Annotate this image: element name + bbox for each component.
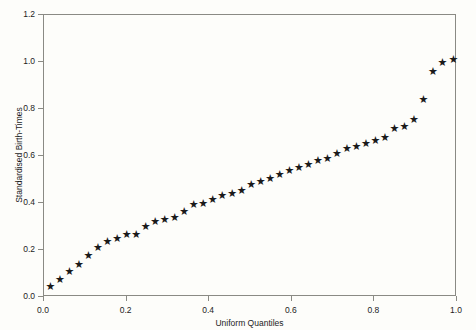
x-axis-tick — [291, 296, 292, 301]
y-axis-tick — [38, 296, 43, 297]
data-point: ★ — [102, 238, 109, 245]
data-point: ★ — [449, 56, 456, 63]
plot-frame: ★★★★★★★★★★★★★★★★★★★★★★★★★★★★★★★★★★★★★★★★… — [43, 14, 456, 296]
x-axis-tick-label: 0.2 — [120, 305, 132, 315]
y-axis-tick — [38, 14, 43, 15]
data-point: ★ — [294, 164, 301, 171]
x-axis-label: Uniform Quantiles — [215, 318, 283, 328]
data-point: ★ — [122, 231, 129, 238]
data-point: ★ — [418, 96, 425, 103]
data-point: ★ — [64, 268, 71, 275]
x-axis-tick-label: 0.0 — [37, 305, 49, 315]
data-point: ★ — [170, 214, 177, 221]
data-point: ★ — [112, 235, 119, 242]
data-point: ★ — [285, 167, 292, 174]
y-axis-tick-label: 0.0 — [11, 291, 35, 301]
x-axis-tick — [43, 296, 44, 301]
x-axis-tick — [208, 296, 209, 301]
x-axis-tick-label: 0.6 — [285, 305, 297, 315]
y-axis-tick — [38, 249, 43, 250]
data-point: ★ — [313, 157, 320, 164]
data-point: ★ — [141, 223, 148, 230]
y-axis-tick — [38, 108, 43, 109]
scatter-data-layer: ★★★★★★★★★★★★★★★★★★★★★★★★★★★★★★★★★★★★★★★★… — [44, 15, 455, 295]
data-point: ★ — [55, 276, 62, 283]
data-point: ★ — [361, 140, 368, 147]
data-point: ★ — [179, 208, 186, 215]
data-point: ★ — [74, 261, 81, 268]
data-point: ★ — [428, 68, 435, 75]
x-axis-tick-label: 0.4 — [202, 305, 214, 315]
data-point: ★ — [342, 145, 349, 152]
data-point: ★ — [265, 175, 272, 182]
x-axis-tick-label: 0.8 — [367, 305, 379, 315]
data-point: ★ — [189, 201, 196, 208]
qq-plot-figure: ★★★★★★★★★★★★★★★★★★★★★★★★★★★★★★★★★★★★★★★★… — [0, 0, 476, 330]
data-point: ★ — [93, 244, 100, 251]
data-point: ★ — [227, 190, 234, 197]
data-point: ★ — [399, 123, 406, 130]
data-point: ★ — [83, 252, 90, 259]
data-point: ★ — [45, 283, 52, 290]
data-point: ★ — [160, 216, 167, 223]
x-axis-tick — [456, 296, 457, 301]
data-point: ★ — [323, 155, 330, 162]
data-point: ★ — [370, 137, 377, 144]
data-point: ★ — [437, 59, 444, 66]
data-point: ★ — [150, 218, 157, 225]
y-axis-tick-label: 1.0 — [11, 56, 35, 66]
data-point: ★ — [246, 181, 253, 188]
y-axis-tick — [38, 61, 43, 62]
y-axis-tick-label: 0.2 — [11, 244, 35, 254]
data-point: ★ — [409, 116, 416, 123]
data-point: ★ — [275, 171, 282, 178]
y-axis-label: Standardised Birth-Times — [14, 107, 24, 203]
data-point: ★ — [256, 178, 263, 185]
data-point: ★ — [351, 143, 358, 150]
data-point: ★ — [198, 200, 205, 207]
x-axis-tick — [373, 296, 374, 301]
data-point: ★ — [131, 231, 138, 238]
data-point: ★ — [237, 187, 244, 194]
x-axis-tick-label: 1.0 — [450, 305, 462, 315]
y-axis-tick — [38, 155, 43, 156]
data-point: ★ — [217, 192, 224, 199]
data-point: ★ — [304, 161, 311, 168]
x-axis-tick — [126, 296, 127, 301]
data-point: ★ — [389, 125, 396, 132]
y-axis-tick — [38, 202, 43, 203]
data-point: ★ — [380, 134, 387, 141]
y-axis-tick-label: 1.2 — [11, 9, 35, 19]
data-point: ★ — [332, 150, 339, 157]
data-point: ★ — [208, 196, 215, 203]
